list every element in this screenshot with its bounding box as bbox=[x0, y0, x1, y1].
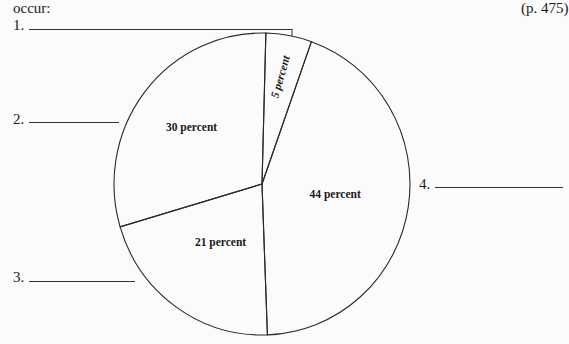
pie-slice-label-3: 21 percent bbox=[195, 236, 246, 249]
pie-slice-label-1: 5 percent bbox=[268, 53, 293, 99]
pie-slice-3 bbox=[120, 184, 267, 335]
pie-slice-label-4: 30 percent bbox=[166, 121, 217, 134]
pie-chart: 5 percent44 percent21 percent30 percent bbox=[0, 0, 569, 344]
pie-slice-label-2: 44 percent bbox=[310, 188, 361, 201]
